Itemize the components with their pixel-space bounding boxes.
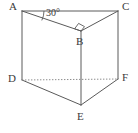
vertex-label-f: F — [122, 72, 128, 83]
vertex-label-d: D — [8, 73, 16, 84]
angle-label-30deg: 30° — [46, 8, 60, 18]
vertex-label-a: A — [9, 1, 17, 12]
edge-ef — [81, 79, 118, 105]
edge-df-hidden — [22, 79, 118, 80]
vertex-label-c: C — [122, 1, 129, 12]
angle-arc-at-a — [42, 11, 44, 20]
geometry-figure: A B C D E F 30° — [0, 0, 138, 133]
vertex-label-b: B — [76, 36, 83, 47]
edge-de — [22, 80, 81, 105]
prism-drawing — [0, 0, 138, 133]
vertex-label-e: E — [77, 111, 84, 122]
edge-bc — [81, 11, 118, 31]
